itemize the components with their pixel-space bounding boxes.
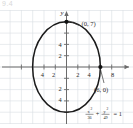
y-tick-labels: 4 2 2 4 <box>58 41 62 104</box>
equation-y-exponent: 2 <box>106 107 108 111</box>
x-intercept-point <box>98 65 102 69</box>
x-tick-label-pos2: 2 <box>76 71 79 78</box>
equation-x-denominator: 36 <box>87 115 91 120</box>
ellipse-equation: x 2 36 + y 2 49 = 1 <box>86 107 122 120</box>
coordinate-plane: 4 2 2 4 8 4 2 2 4 y (0, 7) (6, 0) x 2 <box>0 0 133 128</box>
x-intercept-leader <box>100 69 104 83</box>
x-intercept-label: (6, 0) <box>94 86 108 94</box>
y-tick-label-neg4: 4 <box>58 96 62 103</box>
equation-x-exponent: 2 <box>90 107 92 111</box>
y-intercept-label: (0, 7) <box>82 20 96 28</box>
y-tick-label-pos2: 2 <box>58 52 61 59</box>
x-axis-arrow <box>125 65 130 69</box>
x-tick-label-neg2: 2 <box>52 71 55 78</box>
equation-y-denominator: 49 <box>103 115 107 120</box>
y-intercept-point <box>64 20 68 24</box>
equation-plus: + <box>96 110 100 117</box>
y-tick-label-neg2: 2 <box>58 85 61 92</box>
y-axis-label: y <box>59 9 64 17</box>
ellipse-figure: 9.4 <box>0 0 133 128</box>
corner-page-mark: 9.4 <box>2 0 13 8</box>
x-tick-label-pos4: 4 <box>87 71 91 78</box>
y-axis-arrow <box>64 11 68 16</box>
x-tick-labels: 4 2 2 4 8 <box>41 71 114 78</box>
x-tick-label-pos8: 8 <box>111 71 114 78</box>
equation-equals-one: = 1 <box>114 110 122 117</box>
